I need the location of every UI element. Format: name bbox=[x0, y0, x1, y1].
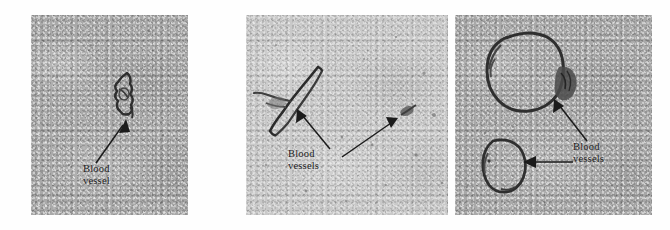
panel-1-specks bbox=[46, 30, 177, 212]
panel-1-arrow-1 bbox=[96, 119, 130, 163]
panel-2-overlay bbox=[246, 15, 448, 215]
figure-container: Blood vessel bbox=[0, 0, 670, 230]
panel-3-arrow-1 bbox=[553, 99, 587, 141]
panel-1-vessel-1 bbox=[115, 73, 133, 118]
panel-3-label: Blood vessels bbox=[573, 141, 604, 164]
panel-3-arrow-2 bbox=[523, 156, 573, 168]
panel-2-vessel-1 bbox=[254, 67, 322, 135]
panel-2-arrow-2 bbox=[342, 117, 398, 157]
panel-3-vessel-1 bbox=[487, 33, 577, 111]
panel-3-overlay bbox=[455, 15, 652, 215]
micrograph-panel-1: Blood vessel bbox=[31, 15, 188, 215]
micrograph-panel-2: Blood vessels bbox=[246, 15, 448, 215]
panel-2-label: Blood vessels bbox=[288, 148, 319, 171]
panel-1-label: Blood vessel bbox=[83, 163, 110, 186]
panel-2-vessel-2 bbox=[399, 104, 416, 118]
micrograph-panel-3: Blood vessels bbox=[455, 15, 652, 215]
panel-3-vessel-2 bbox=[483, 140, 526, 192]
panel-2-arrow-1 bbox=[296, 109, 330, 149]
